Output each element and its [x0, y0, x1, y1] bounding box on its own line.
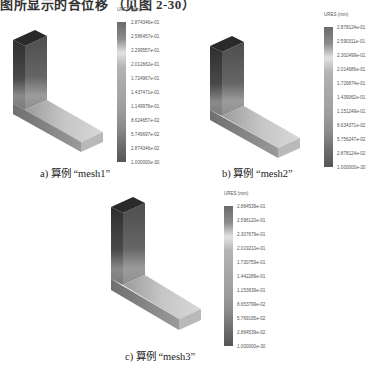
- legend-label: 1.726874e-01: [337, 81, 365, 86]
- legend-label: 5.769195e-02: [237, 316, 265, 321]
- legend-label: 2.884539e-02: [237, 330, 265, 335]
- legend-label: 1.000000e-30: [131, 160, 159, 165]
- legend-label: 8.653799e-02: [237, 302, 265, 307]
- legend-label: 2.019210e-01: [237, 246, 265, 251]
- legend-label: 2.299557e-01: [131, 48, 159, 53]
- legend-label: 2.302499e-01: [337, 53, 365, 58]
- legend-label: 1.000000e-30: [237, 344, 265, 349]
- legend-label: 2.874346e-01: [131, 20, 159, 25]
- legend-label: 1.439062e-01: [337, 95, 365, 100]
- l-bracket-model-c: [103, 193, 213, 333]
- legend-title: URES (mm): [324, 12, 348, 17]
- legend-label: 2.884539e-01: [237, 204, 265, 209]
- legend-label: 8.634371e-02: [337, 123, 365, 128]
- legend-label: 1.151249e-01: [337, 109, 365, 114]
- legend-label: 1.437471e-01: [131, 90, 159, 95]
- legend-label: 2.878124e-01: [337, 25, 365, 30]
- legend-label: 5.756247e-02: [337, 137, 365, 142]
- legend-label: 2.586457e-01: [131, 34, 159, 39]
- color-scale-bar: [224, 206, 233, 346]
- legend-label: 1.153839e-01: [237, 288, 265, 293]
- caption-a: a) 算例 “mesh1”: [40, 165, 110, 180]
- l-bracket-model-b: [202, 34, 312, 162]
- legend-label: 2.307679e-01: [237, 232, 265, 237]
- color-scale-bar: [117, 22, 126, 162]
- legend-label: 1.000000e-30: [337, 165, 365, 170]
- legend-label: 2.874346e-02: [131, 146, 159, 151]
- legend-label: 1.149978e-01: [131, 104, 159, 109]
- caption-b: b) 算例 “mesh2”: [222, 165, 293, 180]
- legend-label: 2.590311e-01: [337, 39, 365, 44]
- figure-panel-a: URES (mm) 2.874346e-01 2.586457e-01 2.29…: [0, 0, 190, 180]
- legend-label: 2.012662e-01: [131, 62, 159, 67]
- legend-label: 2.596120e-01: [237, 218, 265, 223]
- legend-label: 1.442289e-01: [237, 274, 265, 279]
- legend-label: 1.724967e-01: [131, 76, 159, 81]
- legend-a: URES (mm) 2.874346e-01 2.586457e-01 2.29…: [117, 7, 189, 167]
- legend-c: URES (mm) 2.884539e-01 2.596120e-01 2.30…: [224, 191, 294, 351]
- figure-panel-b: URES (mm) 2.878124e-01 2.590311e-01 2.30…: [190, 0, 379, 180]
- legend-label: 8.624657e-02: [131, 118, 159, 123]
- figure-panel-c: URES (mm) 2.884539e-01 2.596120e-01 2.30…: [95, 185, 295, 370]
- color-scale-bar: [324, 27, 333, 167]
- legend-b: URES (mm) 2.878124e-01 2.590311e-01 2.30…: [324, 12, 379, 172]
- l-bracket-model-a: [5, 28, 115, 156]
- caption-c: c) 算例 “mesh3”: [125, 348, 195, 363]
- legend-label: 1.730759e-01: [237, 260, 265, 265]
- legend-title: URES (mm): [117, 7, 141, 12]
- legend-title: URES (mm): [224, 191, 248, 196]
- legend-label: 5.749697e-02: [131, 132, 159, 137]
- legend-label: 2.878124e-02: [337, 151, 365, 156]
- legend-label: 2.014686e-01: [337, 67, 365, 72]
